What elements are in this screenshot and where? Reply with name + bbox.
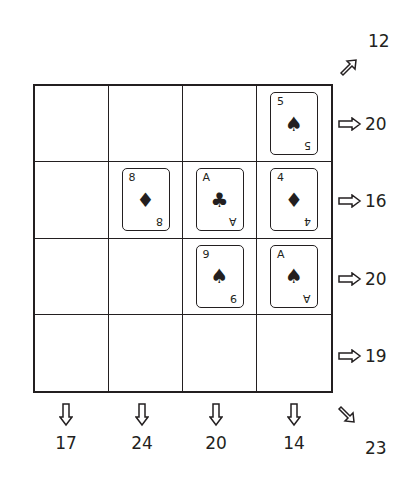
card-rank-inverted: 8	[156, 215, 163, 227]
grid-cell-r3-c3[interactable]	[257, 315, 331, 391]
row-sum-value: 19	[365, 346, 387, 366]
row-sum-value: 20	[365, 269, 387, 289]
diagonal-down-sum-value: 23	[365, 438, 387, 458]
diamond-icon: ♦	[137, 190, 155, 210]
card-rank-inverted: 4	[304, 215, 311, 227]
grid-cell-r0-c3[interactable]: 5 ♠ 5	[257, 86, 331, 162]
col-sum-value: 24	[131, 433, 153, 453]
row-hint-1: 16	[338, 191, 387, 211]
col-sum-value: 17	[55, 433, 77, 453]
card-rank: A	[277, 249, 285, 261]
playing-card[interactable]: 8 ♦ 8	[122, 168, 170, 231]
playing-card[interactable]: 5 ♠ 5	[270, 92, 318, 155]
arrow-right-icon	[338, 349, 362, 363]
diagonal-up-hint	[338, 56, 360, 78]
row-hint-2: 20	[338, 269, 387, 289]
row-hint-3: 19	[338, 346, 387, 366]
spade-icon: ♠	[211, 266, 229, 286]
grid-cell-r3-c1[interactable]	[109, 315, 183, 391]
diamond-icon: ♦	[285, 190, 303, 210]
diagonal-down-sum: 23	[365, 438, 387, 458]
playing-card[interactable]: A ♣ A	[196, 168, 244, 231]
grid-cell-r3-c2[interactable]	[183, 315, 257, 391]
row-hint-0: 20	[338, 114, 387, 134]
grid-cell-r2-c0[interactable]	[35, 239, 109, 315]
arrow-down-right-icon	[336, 404, 358, 426]
card-rank-inverted: A	[303, 292, 311, 304]
arrow-right-icon	[338, 117, 362, 131]
arrow-right-icon	[338, 194, 362, 208]
arrow-down-icon	[135, 403, 149, 427]
card-grid: 5 ♠ 5 8 ♦ 8 A ♣ A 4 ♦ 4 9 ♠ 9	[33, 84, 333, 393]
col-hint-3: 14	[274, 403, 314, 453]
diagonal-down-hint	[336, 404, 358, 426]
grid-cell-r1-c0[interactable]	[35, 162, 109, 238]
grid-cell-r0-c2[interactable]	[183, 86, 257, 162]
card-rank: A	[203, 172, 211, 184]
col-hint-0: 17	[46, 403, 86, 453]
grid-cell-r1-c3[interactable]: 4 ♦ 4	[257, 162, 331, 238]
playing-card[interactable]: 4 ♦ 4	[270, 168, 318, 231]
col-sum-value: 14	[283, 433, 305, 453]
col-sum-value: 20	[205, 433, 227, 453]
col-hint-1: 24	[122, 403, 162, 453]
grid-cell-r1-c1[interactable]: 8 ♦ 8	[109, 162, 183, 238]
diagonal-up-sum-value: 12	[368, 31, 390, 51]
grid-cell-r2-c1[interactable]	[109, 239, 183, 315]
playing-card[interactable]: A ♠ A	[270, 245, 318, 308]
grid-cell-r0-c0[interactable]	[35, 86, 109, 162]
spade-icon: ♠	[285, 114, 303, 134]
card-rank: 8	[129, 172, 136, 184]
grid-cell-r3-c0[interactable]	[35, 315, 109, 391]
card-rank-inverted: A	[229, 215, 237, 227]
row-sum-value: 16	[365, 191, 387, 211]
card-rank: 4	[277, 172, 284, 184]
arrow-down-icon	[287, 403, 301, 427]
playing-card[interactable]: 9 ♠ 9	[196, 245, 244, 308]
spade-icon: ♠	[285, 266, 303, 286]
arrow-down-icon	[59, 403, 73, 427]
card-rank-inverted: 9	[230, 292, 237, 304]
grid-cell-r2-c3[interactable]: A ♠ A	[257, 239, 331, 315]
arrow-down-icon	[209, 403, 223, 427]
grid-cell-r2-c2[interactable]: 9 ♠ 9	[183, 239, 257, 315]
grid-cell-r0-c1[interactable]	[109, 86, 183, 162]
club-icon: ♣	[211, 190, 229, 210]
row-sum-value: 20	[365, 114, 387, 134]
arrow-up-right-icon	[338, 56, 360, 78]
diagonal-up-sum: 12	[368, 31, 390, 51]
card-rank: 5	[277, 96, 284, 108]
col-hint-2: 20	[196, 403, 236, 453]
arrow-right-icon	[338, 272, 362, 286]
card-rank: 9	[203, 249, 210, 261]
grid-cell-r1-c2[interactable]: A ♣ A	[183, 162, 257, 238]
card-rank-inverted: 5	[304, 139, 311, 151]
